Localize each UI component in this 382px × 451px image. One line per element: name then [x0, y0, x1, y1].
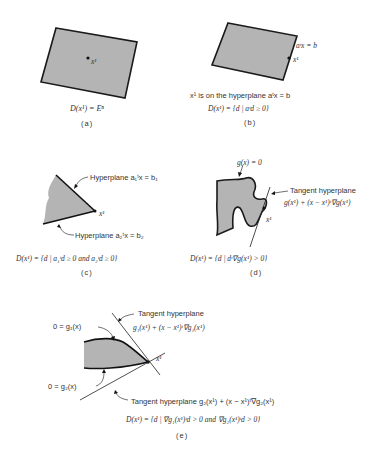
- panel-a-formula: D(x¹) = Eⁿ: [70, 105, 104, 113]
- panel-c-hyperplane1-label: Hyperplane a₁ᵗx = b₁: [90, 174, 158, 182]
- panel-b-caption: (b): [244, 118, 256, 127]
- panel-b-point-label: x¹: [293, 56, 299, 64]
- panel-b-statement: x¹ is on the hyperplane aᵗx = b: [190, 92, 290, 100]
- panel-e-tangent1-formula: g₁(x¹) + (x − x¹)ᵗ∇g₁(x¹): [133, 324, 205, 332]
- panel-d-point-label: x¹: [266, 216, 272, 224]
- panel-e-constraint2-label: 0 = g₂(x): [48, 383, 77, 391]
- panel-d-formula: D(x¹) = {d | dᵗ∇g(x¹) > 0}: [190, 255, 267, 263]
- panel-a-point-label: x¹: [91, 58, 97, 66]
- panel-e-caption: (e): [176, 431, 188, 440]
- panel-a-region: [41, 28, 137, 98]
- panel-b-formula: D(x¹) = {d | aᵗd ≥ 0}: [208, 105, 269, 113]
- panel-d-caption: (d): [250, 268, 262, 277]
- panel-e-constraint1-label: 0 = g₁(x): [53, 323, 81, 331]
- panel-e-tangent1-label: Tangent hyperplane: [138, 310, 204, 318]
- panel-d-tangent-formula: g(x¹) + (x − x¹)ᵗ∇g(x¹): [284, 199, 350, 207]
- panel-c-point-label: x¹: [99, 210, 105, 218]
- panel-e-formula: D(x¹) = {d | ∇g₁(x¹)ᵗd > 0 and ∇g₂(x¹)ᵗd…: [126, 416, 260, 424]
- panel-c-caption: (c): [81, 268, 93, 277]
- panel-e-point-label: x¹: [156, 355, 162, 363]
- panel-d-constraint-label: g(x) = 0: [237, 159, 262, 167]
- panel-b-edge-label: aᵗx = b: [296, 42, 317, 50]
- panel-c-region: [43, 175, 97, 235]
- panel-c-hyperplane2-label: Hyperplane a₂ᵗx = b₂: [75, 232, 144, 240]
- panel-d-region: [217, 165, 288, 247]
- panel-d-tangent-label: Tangent hyperplane: [290, 187, 356, 195]
- panel-c-formula: D(x¹) = {d | a₁ᵗd ≥ 0 and a₂ᵗd ≥ 0}: [16, 255, 117, 263]
- panel-e-tangent2-label: Tangent hyperplane g₂(x¹) + (x − x¹)ᵗ∇g₂…: [131, 398, 274, 406]
- panel-b-region: [212, 23, 297, 80]
- panel-a-caption: (a): [81, 119, 93, 128]
